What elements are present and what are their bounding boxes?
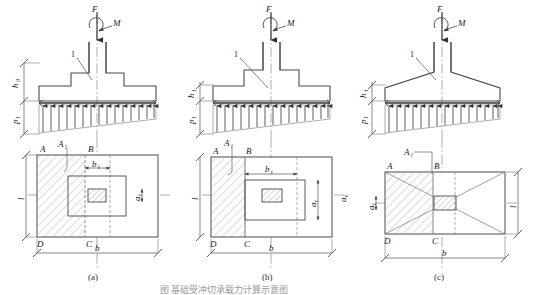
area-label-b: A bbox=[223, 138, 230, 148]
force-label-a: F bbox=[91, 4, 98, 14]
column-rect-c bbox=[434, 196, 456, 210]
column-a bbox=[89, 42, 106, 73]
corner-B-b: B bbox=[246, 146, 252, 156]
punch-area-c bbox=[385, 172, 433, 234]
caption-c: (c) bbox=[434, 272, 444, 282]
engineering-figure: 1 bbox=[0, 0, 534, 295]
bt-label-a: b bbox=[92, 159, 97, 169]
b-label-a: b bbox=[95, 243, 100, 253]
punch-area-b bbox=[211, 157, 245, 237]
depth-sub-b: 1 bbox=[191, 89, 197, 92]
panel-a-elevation: 1 bbox=[10, 4, 156, 138]
punch-area-a bbox=[37, 155, 85, 237]
moment-label-b: M bbox=[286, 18, 295, 28]
pressure-sub-c: 1 bbox=[363, 116, 369, 119]
panel-a: 1 bbox=[10, 4, 172, 282]
pressure-trapezoid-a bbox=[39, 105, 156, 133]
moment-leader-a bbox=[99, 26, 112, 30]
moment-label-c: M bbox=[457, 18, 466, 28]
depth-label-b: h bbox=[186, 93, 196, 98]
corner-D-c: D bbox=[383, 236, 391, 246]
pressure-label-group-b: p 1 bbox=[186, 116, 197, 125]
pressure-label-group-c: p 1 bbox=[358, 116, 369, 125]
depth-label-group-a: h 0 bbox=[10, 79, 21, 88]
at-label-group-c: a t bbox=[366, 203, 377, 210]
corner-D-b: D bbox=[209, 239, 217, 249]
force-label-b: F bbox=[265, 4, 272, 14]
depth-label-c: h bbox=[358, 93, 368, 98]
moment-label-a: M bbox=[112, 18, 121, 28]
footing-outline-a bbox=[39, 42, 156, 101]
corner-C-a: C bbox=[86, 239, 93, 249]
l-label-b: l bbox=[190, 197, 200, 200]
panel-b-plan: A B C D A l b t a t l bbox=[190, 138, 349, 268]
panel-b: 1 bbox=[186, 4, 349, 282]
area-sub-c: l bbox=[411, 152, 413, 158]
bt-label-b: b bbox=[265, 164, 270, 174]
pressure-sub-b: 1 bbox=[191, 116, 197, 119]
corner-B-a: B bbox=[88, 144, 94, 154]
pressure-arrows-a bbox=[43, 106, 154, 132]
column-rect-b bbox=[262, 189, 282, 202]
area-sub-b: l bbox=[231, 143, 233, 149]
corner-A-b: A bbox=[212, 146, 219, 156]
figure-root: 1 bbox=[0, 0, 534, 295]
pressure-arrows-c bbox=[389, 106, 498, 132]
footing-outline-b bbox=[213, 42, 330, 101]
pressure-trapezoid-c bbox=[385, 105, 500, 133]
force-label-c: F bbox=[436, 4, 443, 14]
pressure-label-group-a: p 1 bbox=[10, 116, 21, 125]
pressure-arrows-b bbox=[217, 106, 328, 132]
l-label-a: l bbox=[16, 197, 26, 200]
leader-label-a: 1 bbox=[71, 50, 75, 59]
panel-c-elevation: 1 bbox=[358, 4, 500, 138]
l-label-group-c: l bbox=[508, 205, 518, 208]
b-label-c: b bbox=[442, 248, 447, 258]
l-label-c: l bbox=[508, 205, 518, 208]
pressure-trapezoid-b bbox=[213, 105, 330, 133]
figure-title: 图 基础受冲切承载力计算示意图 bbox=[160, 284, 288, 295]
area-leader-c bbox=[414, 152, 432, 174]
column-rect-a bbox=[88, 189, 106, 202]
area-label-a: A bbox=[57, 139, 64, 149]
footing-outline-c bbox=[385, 42, 500, 101]
panel-c: 1 bbox=[358, 4, 522, 282]
panel-b-elevation: 1 bbox=[186, 4, 330, 138]
corner-A-c: A bbox=[386, 161, 393, 171]
pressure-sub-a: 1 bbox=[15, 116, 21, 119]
corner-A-a: A bbox=[39, 144, 46, 154]
l-label-group-a: l bbox=[16, 197, 26, 200]
depth-sub-c: 1 bbox=[363, 89, 369, 92]
corner-C-b: C bbox=[244, 239, 251, 249]
column-c bbox=[434, 42, 451, 72]
moment-leader-c bbox=[444, 26, 457, 30]
caption-a: (a) bbox=[88, 272, 98, 282]
column-b bbox=[263, 42, 280, 70]
depth-sub-a: 0 bbox=[15, 79, 21, 82]
b-label-b: b bbox=[269, 243, 274, 253]
corner-B-c: B bbox=[434, 161, 440, 171]
corner-C-c: C bbox=[432, 236, 439, 246]
depth-label-group-b: h 1 bbox=[186, 89, 197, 98]
l-label-group-b: l bbox=[190, 197, 200, 200]
depth-label-group-c: h 1 bbox=[358, 89, 369, 98]
area-label-c: A bbox=[403, 147, 410, 157]
leader-label-b: 1 bbox=[234, 50, 238, 59]
caption-b: (b) bbox=[262, 272, 273, 282]
leader-label-c: 1 bbox=[410, 50, 414, 59]
moment-leader-b bbox=[273, 26, 286, 30]
panel-c-plan: A B C D A l a t l bbox=[366, 138, 522, 268]
leader-line-a bbox=[77, 58, 92, 80]
at-outer-label-group-b: a t bbox=[338, 195, 349, 202]
panel-a-plan: A B C D A l b t a t l bbox=[16, 138, 172, 268]
depth-label-a: h bbox=[10, 83, 20, 88]
